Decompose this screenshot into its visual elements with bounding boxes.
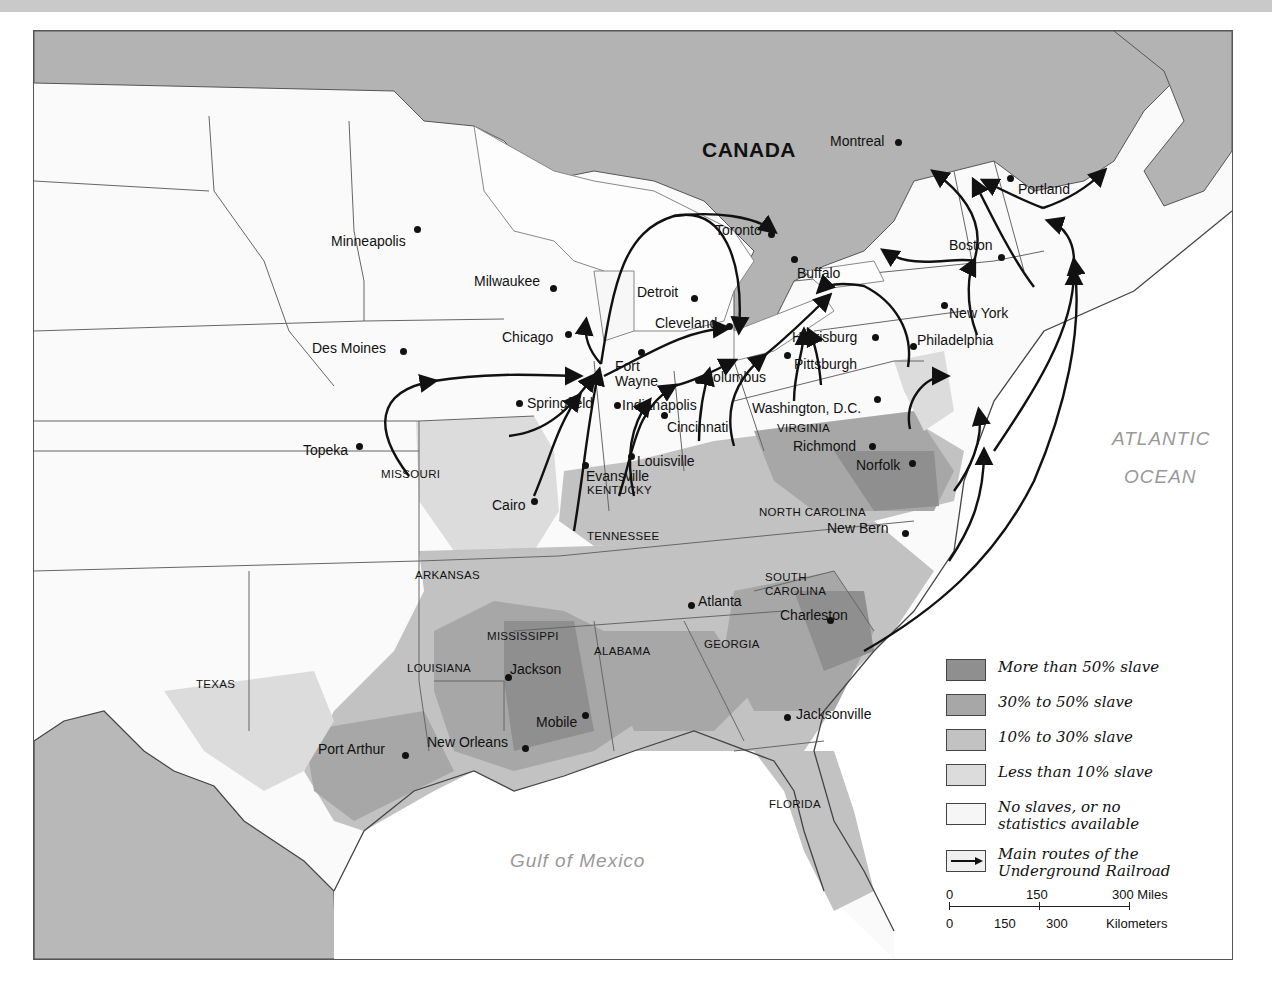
city-label: Louisville xyxy=(637,454,695,468)
city-marker-icon xyxy=(582,462,589,469)
city-marker-icon xyxy=(784,352,791,359)
city-label: Port Arthur xyxy=(318,742,385,756)
city-marker-icon xyxy=(827,617,834,624)
legend-item-over-50: More than 50% slave xyxy=(946,659,1226,681)
city-label: Atlanta xyxy=(698,594,742,608)
state-label: FLORIDA xyxy=(769,799,821,811)
scale-miles-300: 300 Miles xyxy=(1112,887,1168,902)
city-marker-icon xyxy=(872,334,879,341)
city-marker-icon xyxy=(895,139,902,146)
city-label: Philadelphia xyxy=(917,333,993,347)
city-label: New York xyxy=(949,306,1008,320)
legend-item-routes: Main routes of the Underground Railroad xyxy=(946,846,1226,880)
city-label: Topeka xyxy=(303,443,348,457)
scale-tick xyxy=(1039,902,1040,910)
scale-tick xyxy=(949,902,950,910)
legend-label-line2: Underground Railroad xyxy=(998,863,1170,880)
city-marker-icon xyxy=(522,745,529,752)
scale-km-300: 300 xyxy=(1046,916,1068,931)
city-label: Cincinnati xyxy=(667,420,728,434)
legend-swatch xyxy=(946,729,986,751)
gulf-of-mexico-label: Gulf of Mexico xyxy=(510,851,645,870)
state-label: CAROLINA xyxy=(765,586,826,598)
legend-label: More than 50% slave xyxy=(998,659,1159,676)
city-label: Buffalo xyxy=(797,266,840,280)
legend-label-line2: statistics available xyxy=(998,816,1139,833)
city-marker-icon xyxy=(688,602,695,609)
city-label: Chicago xyxy=(502,330,553,344)
city-marker-icon xyxy=(661,412,668,419)
city-label: Pittsburgh xyxy=(794,357,857,371)
city-marker-icon xyxy=(356,443,363,450)
state-label: NORTH CAROLINA xyxy=(759,507,866,519)
city-label: Charleston xyxy=(780,608,848,622)
legend-label: 30% to 50% slave xyxy=(998,694,1133,711)
city-marker-icon xyxy=(400,348,407,355)
city-label: Toronto xyxy=(715,223,762,237)
scale-km-150: 150 xyxy=(994,916,1016,931)
city-marker-icon xyxy=(565,331,572,338)
city-marker-icon xyxy=(531,498,538,505)
city-label: Detroit xyxy=(637,285,678,299)
city-marker-icon xyxy=(628,453,635,460)
atlantic-ocean-label-line2: OCEAN xyxy=(1124,467,1197,486)
city-label: Jackson xyxy=(510,662,561,676)
city-label: Milwaukee xyxy=(474,274,540,288)
state-label: KENTUCKY xyxy=(587,485,652,497)
city-marker-icon xyxy=(695,377,702,384)
city-label: New Bern xyxy=(827,521,888,535)
city-marker-icon xyxy=(784,714,791,721)
city-marker-icon xyxy=(910,343,917,350)
city-marker-icon xyxy=(550,285,557,292)
city-marker-icon xyxy=(998,254,1005,261)
legend-label: Main routes of the Underground Railroad xyxy=(998,846,1170,880)
city-label: Portland xyxy=(1018,182,1070,196)
city-label: Wayne xyxy=(615,374,658,388)
state-label: MISSOURI xyxy=(381,469,440,481)
city-marker-icon xyxy=(402,752,409,759)
city-label: Columbus xyxy=(703,370,766,384)
city-marker-icon xyxy=(726,323,733,330)
scale-tick xyxy=(1129,902,1130,910)
state-label: LOUISIANA xyxy=(407,663,471,675)
city-label: Indianapolis xyxy=(622,398,697,412)
city-label: Fort xyxy=(615,359,640,373)
city-label: Jacksonville xyxy=(796,707,871,721)
city-marker-icon xyxy=(691,295,698,302)
city-label: Minneapolis xyxy=(331,234,406,248)
legend-label: No slaves, or no statistics available xyxy=(998,799,1139,833)
route-arrow-icon xyxy=(947,851,985,871)
legend-item-under-10: Less than 10% slave xyxy=(946,764,1226,786)
city-marker-icon xyxy=(1007,175,1014,182)
city-marker-icon xyxy=(874,396,881,403)
city-marker-icon xyxy=(614,402,621,409)
city-label: Richmond xyxy=(793,439,856,453)
city-marker-icon xyxy=(582,712,589,719)
map-frame: CANADA ATLANTIC OCEAN Gulf of Mexico MIS… xyxy=(33,30,1233,960)
city-marker-icon xyxy=(909,460,916,467)
scale-km-0: 0 xyxy=(946,916,953,931)
city-label: Harrisburg xyxy=(792,330,857,344)
city-label: Mobile xyxy=(536,715,577,729)
city-label: Cairo xyxy=(492,498,525,512)
map-legend: More than 50% slave 30% to 50% slave 10%… xyxy=(946,659,1226,893)
city-label: Norfolk xyxy=(856,458,900,472)
scale-km-label: Kilometers xyxy=(1106,916,1167,931)
atlantic-ocean-label-line1: ATLANTIC xyxy=(1112,429,1210,448)
scale-miles-150: 150 xyxy=(1026,887,1048,902)
city-label: Washington, D.C. xyxy=(752,401,861,415)
country-label-canada: CANADA xyxy=(702,139,796,160)
city-marker-icon xyxy=(941,302,948,309)
city-marker-icon xyxy=(638,349,645,356)
legend-label-line1: No slaves, or no xyxy=(998,799,1139,816)
city-marker-icon xyxy=(869,443,876,450)
city-marker-icon xyxy=(414,226,421,233)
legend-item-30-50: 30% to 50% slave xyxy=(946,694,1226,716)
city-label: Springfield xyxy=(527,396,593,410)
state-label: TEXAS xyxy=(196,679,235,691)
legend-swatch xyxy=(946,694,986,716)
state-label: GEORGIA xyxy=(704,639,760,651)
city-marker-icon xyxy=(768,231,775,238)
legend-item-10-30: 10% to 30% slave xyxy=(946,729,1226,751)
state-label: TENNESSEE xyxy=(587,531,659,543)
